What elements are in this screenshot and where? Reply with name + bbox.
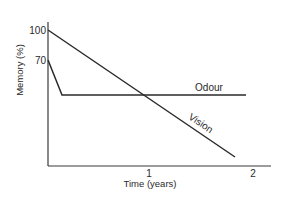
vision-series-line [48,30,235,157]
vision-label: Vision [187,111,216,135]
chart-svg: 100 70 Memory (%) 1 2 Time (years) Odour… [0,0,286,198]
x-axis-label: Time (years) [124,178,177,189]
y-tick-70: 70 [35,55,47,66]
odour-label: Odour [195,82,223,93]
memory-decay-chart: 100 70 Memory (%) 1 2 Time (years) Odour… [0,0,286,198]
y-axis-label: Memory (%) [14,44,25,96]
y-tick-100: 100 [29,25,46,36]
x-tick-2: 2 [250,168,256,179]
